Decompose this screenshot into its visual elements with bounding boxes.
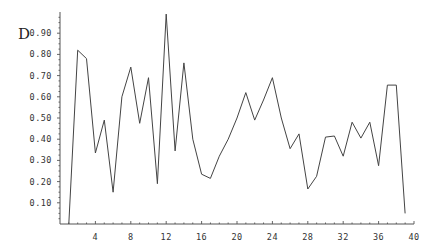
y-tick-label: 0.20 [30, 177, 52, 187]
y-tick-label: 0.10 [30, 198, 52, 208]
x-tick-label: 28 [302, 232, 313, 242]
y-tick-label: 0.30 [30, 155, 52, 165]
y-axis-ticks: 0.100.200.300.400.500.600.700.800.90 [30, 17, 60, 218]
y-tick-label: 0.90 [30, 28, 52, 38]
y-tick-label: 0.50 [30, 113, 52, 123]
x-tick-label: 12 [161, 232, 172, 242]
y-tick-label: 0.60 [30, 92, 52, 102]
x-tick-label: 16 [196, 232, 207, 242]
x-tick-label: 20 [231, 232, 242, 242]
y-tick-label: 0.70 [30, 71, 52, 81]
y-axis-label: D [18, 25, 30, 43]
data-series-line [69, 14, 405, 224]
x-tick-label: 40 [408, 232, 419, 242]
x-tick-label: 8 [128, 232, 134, 242]
y-tick-label: 0.80 [30, 49, 52, 59]
x-tick-label: 4 [93, 232, 99, 242]
x-tick-label: 24 [267, 232, 278, 242]
x-tick-label: 32 [338, 232, 349, 242]
y-tick-label: 0.40 [30, 134, 52, 144]
x-tick-label: 36 [373, 232, 384, 242]
line-chart: D 0.100.200.300.400.500.600.700.800.90 4… [0, 0, 431, 249]
